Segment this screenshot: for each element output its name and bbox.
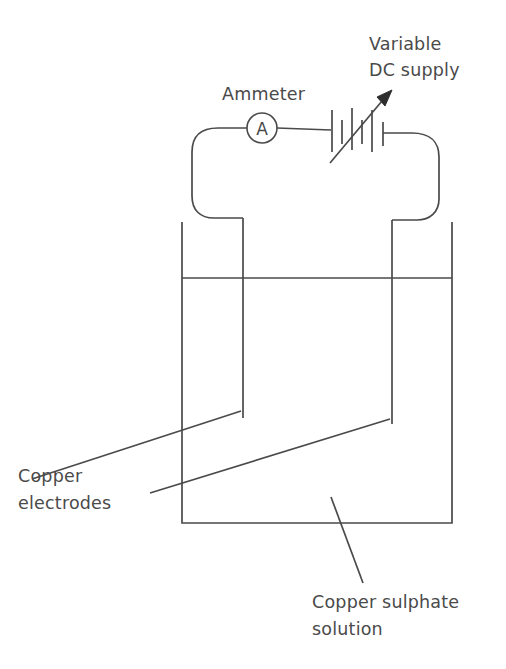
leader-line-right-electrode	[150, 419, 390, 493]
dc-supply-label-line1: Variable	[369, 34, 441, 54]
electrolysis-diagram: A	[0, 0, 506, 669]
dc-supply-label-line2: DC supply	[369, 60, 460, 80]
ammeter-to-battery-wire	[277, 128, 331, 130]
beaker-outline	[182, 222, 452, 523]
copper-electrodes-label-line2: electrodes	[18, 493, 111, 513]
diagram-canvas: A	[0, 0, 506, 669]
copper-sulphate-label-line2: solution	[312, 619, 383, 639]
copper-sulphate-label-line1: Copper sulphate	[312, 592, 459, 612]
variable-arrow-shaft	[330, 101, 382, 163]
beaker-icon	[182, 222, 452, 523]
copper-electrodes-label-line1: Copper	[18, 466, 83, 486]
right-circuit-wire	[383, 133, 439, 220]
leader-line-solution	[331, 497, 363, 583]
left-circuit-wire	[192, 128, 247, 218]
ammeter-symbol-letter: A	[256, 119, 268, 139]
ammeter-label: Ammeter	[222, 84, 306, 104]
